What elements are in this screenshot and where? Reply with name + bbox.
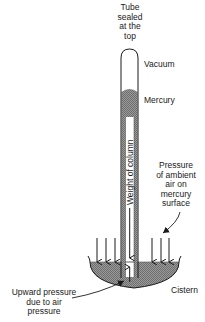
vacuum-label: Vacuum: [144, 60, 175, 70]
ambient-pressure-leader: [163, 212, 180, 233]
tube-top-line-4: top: [112, 32, 148, 42]
upward-line-3: pressure: [8, 307, 80, 317]
weight-of-column-label: Weight of column: [125, 139, 135, 205]
ambient-pressure-arrows-left: [97, 238, 115, 262]
cistern-label: Cistern: [171, 286, 198, 296]
tube-top-label: Tube sealed at the top: [112, 3, 148, 41]
ambient-pressure-arrows-right: [152, 238, 169, 262]
ambient-pressure-label: Pressure of ambient air on mercury surfa…: [148, 161, 204, 209]
upward-pressure-label: Upward pressure due to air pressure: [8, 288, 80, 317]
ambient-line-5: surface: [148, 199, 204, 209]
mercury-label: Mercury: [144, 96, 175, 106]
